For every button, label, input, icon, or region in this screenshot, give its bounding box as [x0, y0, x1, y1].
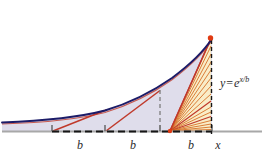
axis-tick-label-b-1: b [70, 139, 90, 151]
equation-exponent: x/b [239, 75, 249, 84]
curve-equation-label: y=ex/b [220, 76, 249, 89]
equation-operator: = [225, 76, 234, 90]
marked-point-on-curve [208, 35, 213, 40]
fan-vertex-point [168, 129, 172, 133]
axis-tick-label-b-3: b [181, 139, 201, 151]
exponential-curve-figure: b b b x y=ex/b [0, 0, 273, 162]
axis-tick-label-b-2: b [123, 139, 143, 151]
axis-tick-label-x: x [208, 139, 228, 151]
